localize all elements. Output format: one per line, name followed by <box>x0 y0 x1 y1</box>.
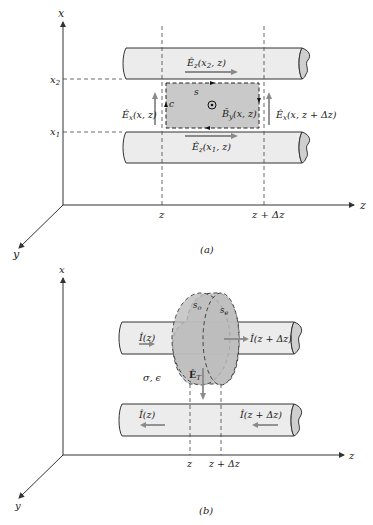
svg-text:Êx(x, z): Êx(x, z) <box>121 109 157 122</box>
surface-label: s <box>194 87 199 97</box>
ez-top-label: Ê <box>186 57 194 68</box>
figure-a: x z y x2 x1 z z + Δz s c B̂y(x, <box>12 7 366 261</box>
z-tick-label: z <box>158 209 165 220</box>
et-label: Ê <box>189 369 196 380</box>
x-axis-label-b: x <box>59 264 65 275</box>
svg-text:Êx(x, z + Δz): Êx(x, z + Δz) <box>275 109 337 122</box>
y-axis-label: y <box>12 248 20 261</box>
by-label: B̂ <box>221 108 229 119</box>
z-axis-label-b: z <box>348 450 355 461</box>
z-dz-tick-label-b: z + Δz <box>208 458 241 469</box>
x-axis-label: x <box>58 7 65 20</box>
i-top-left-label: Î(z) <box>138 332 155 343</box>
ez-bottom-label: Ê <box>191 141 199 152</box>
ex-left-label: Ê <box>121 109 129 120</box>
y-axis <box>19 205 63 248</box>
i-bottom-right-label: Î(z + Δz) <box>239 409 282 420</box>
i-top-right-label: Î(z + Δz) <box>249 333 292 344</box>
y-axis-b <box>19 455 63 498</box>
ex-right-label: Ê <box>275 109 283 120</box>
svg-text:x2: x2 <box>50 74 61 87</box>
transmission-line-figure: x z y x2 x1 z z + Δz s c B̂y(x, <box>0 0 373 525</box>
contour-label: c <box>169 99 174 109</box>
y-axis-label-b: y <box>14 500 21 511</box>
z-tick-label-b: z <box>186 458 193 469</box>
figure-b: x z y so se z z + Δz ÊT σ, ϵ Î(z) <box>14 264 355 516</box>
caption-b: (b) <box>199 505 213 516</box>
z-dz-tick-label: z + Δz <box>251 209 285 220</box>
z-axis-label: z <box>359 199 366 212</box>
svg-text:x1: x1 <box>50 126 60 139</box>
medium-label: σ, ϵ <box>143 372 162 383</box>
caption-a: (a) <box>200 244 214 255</box>
i-bottom-left-label: Î(z) <box>138 409 155 420</box>
